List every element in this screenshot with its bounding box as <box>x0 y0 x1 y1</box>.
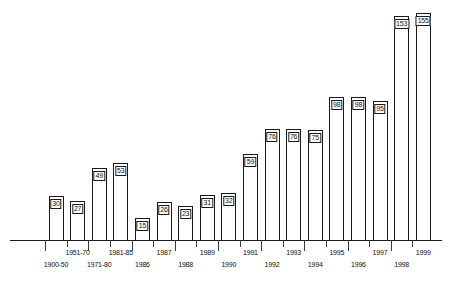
x-axis-tick <box>391 240 392 251</box>
x-axis-label: 1971-80 <box>87 261 111 269</box>
x-axis-label: 1900-50 <box>44 261 68 269</box>
bar: 59 <box>243 154 258 240</box>
bar: 76 <box>265 129 280 240</box>
x-axis-label: 1992 <box>265 261 280 269</box>
x-axis-label: 1997 <box>373 249 388 257</box>
bar-value-label: 153 <box>394 19 409 29</box>
x-axis-tick <box>261 240 262 251</box>
x-axis-tick <box>153 240 154 247</box>
plot-area: 30274953152623313259767675989895153155 <box>14 6 438 240</box>
x-axis-label: 1987 <box>157 249 172 257</box>
x-axis-tick <box>45 240 46 251</box>
x-axis-tick <box>240 240 241 247</box>
x-axis-tick <box>283 240 284 247</box>
x-axis-label: 1981-85 <box>109 249 133 257</box>
bar: 53 <box>113 163 128 241</box>
bar-value-label: 31 <box>201 198 212 208</box>
x-axis-label: 1999 <box>416 249 431 257</box>
bar-value-label: 49 <box>93 171 104 181</box>
bar-value-label: 155 <box>416 16 431 26</box>
bar: 98 <box>329 97 344 240</box>
bar-value-label: 59 <box>245 157 256 167</box>
x-axis-tick <box>175 240 176 251</box>
bar-value-label: 75 <box>309 133 320 143</box>
bar-value-label: 27 <box>72 204 83 214</box>
bar: 23 <box>178 206 193 240</box>
bar: 153 <box>394 16 409 240</box>
bar: 15 <box>135 218 150 240</box>
x-axis-tick <box>304 240 305 251</box>
x-axis-label: 1996 <box>351 261 366 269</box>
bar: 31 <box>200 195 215 240</box>
bar-chart: 30274953152623313259767675989895153155 1… <box>0 0 452 284</box>
bar: 27 <box>70 201 85 240</box>
bar-value-label: 98 <box>353 100 364 110</box>
x-axis-tick <box>412 240 413 247</box>
x-axis-tick <box>326 240 327 247</box>
x-axis-tick <box>369 240 370 247</box>
x-axis-tick <box>196 240 197 247</box>
bar-value-label: 30 <box>50 199 61 209</box>
bar-value-label: 32 <box>223 196 234 206</box>
x-axis-label: 1991 <box>243 249 258 257</box>
bar: 155 <box>416 13 431 240</box>
bar-value-label: 76 <box>288 132 299 142</box>
x-axis-label: 1995 <box>329 249 344 257</box>
bar: 75 <box>308 130 323 240</box>
bar-value-label: 15 <box>137 221 148 231</box>
bar: 32 <box>221 193 236 240</box>
bar-value-label: 26 <box>158 205 169 215</box>
bar-value-label: 53 <box>115 166 126 176</box>
x-axis-tick <box>218 240 219 251</box>
bar: 95 <box>373 101 388 240</box>
bar-value-label: 98 <box>331 100 342 110</box>
x-axis-tick <box>67 240 68 247</box>
x-axis-tick <box>348 240 349 251</box>
bar: 49 <box>92 168 107 240</box>
bar: 26 <box>157 202 172 240</box>
x-axis-label: 1988 <box>178 261 193 269</box>
x-axis-tick <box>110 240 111 247</box>
bar: 76 <box>286 129 301 240</box>
x-axis-label: 1994 <box>308 261 323 269</box>
x-axis-label: 1986 <box>135 261 150 269</box>
x-axis-line <box>10 240 442 241</box>
bar-value-label: 95 <box>374 104 385 114</box>
x-axis-label: 1998 <box>394 261 409 269</box>
x-axis-label: 1951-70 <box>65 249 89 257</box>
x-axis-label: 1990 <box>221 261 236 269</box>
bar: 98 <box>351 97 366 240</box>
x-axis-label: 1993 <box>286 249 301 257</box>
bar: 30 <box>49 196 64 240</box>
bar-value-label: 23 <box>180 209 191 219</box>
x-axis-label: 1989 <box>200 249 215 257</box>
bar-value-label: 76 <box>266 132 277 142</box>
